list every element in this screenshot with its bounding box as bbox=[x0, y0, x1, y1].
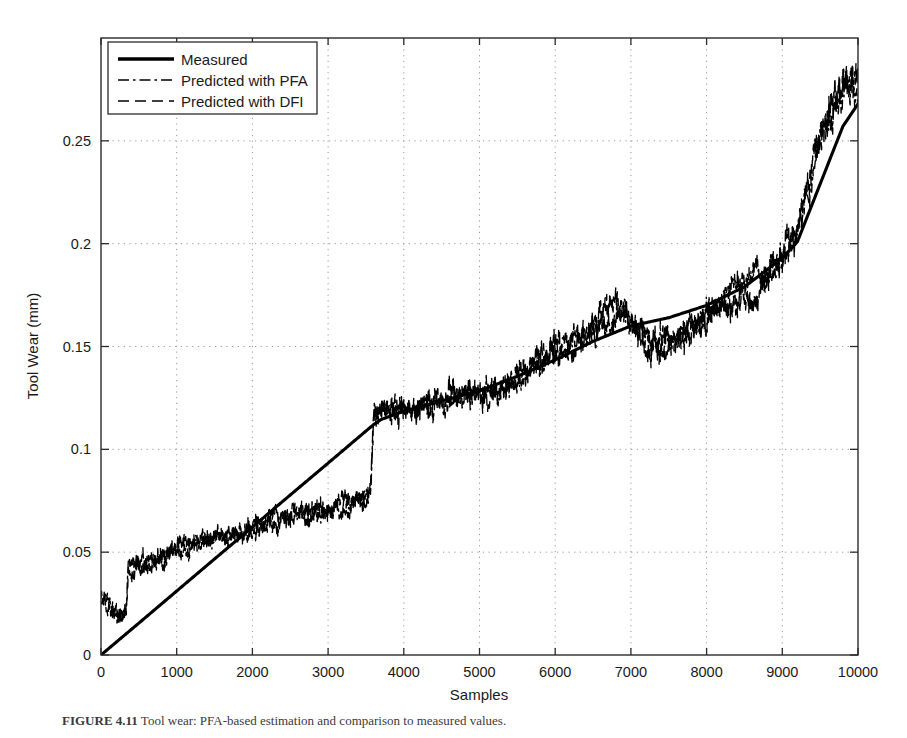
x-tick-label: 0 bbox=[97, 664, 105, 680]
y-tick-label: 0.15 bbox=[63, 339, 91, 355]
x-tick-label: 1000 bbox=[161, 664, 193, 680]
y-tick-label: 0 bbox=[83, 647, 91, 663]
x-axis-label: Samples bbox=[450, 686, 508, 703]
x-tick-label: 5000 bbox=[463, 664, 495, 680]
figure-caption-body: Tool wear: PFA-based estimation and comp… bbox=[141, 713, 506, 728]
y-tick-label: 0.05 bbox=[63, 544, 91, 560]
y-axis-label: Tool Wear (mm) bbox=[24, 293, 41, 399]
x-tick-label: 6000 bbox=[539, 664, 571, 680]
y-tick-label: 0.1 bbox=[71, 441, 91, 457]
chart-legend: MeasuredPredicted with PFAPredicted with… bbox=[108, 42, 317, 114]
legend-label-predicted-with-pfa: Predicted with PFA bbox=[181, 72, 308, 89]
x-tick-label: 7000 bbox=[615, 664, 647, 680]
y-tick-label: 0.25 bbox=[63, 133, 91, 149]
legend-label-measured: Measured bbox=[181, 51, 248, 68]
figure-caption: FIGURE 4.11 Tool wear: PFA-based estimat… bbox=[62, 712, 862, 738]
x-tick-label: 3000 bbox=[312, 664, 344, 680]
figure-caption-number: FIGURE 4.11 bbox=[62, 713, 138, 728]
x-tick-label: 9000 bbox=[766, 664, 798, 680]
x-tick-label: 4000 bbox=[388, 664, 420, 680]
tool-wear-chart: 0100020003000400050006000700080009000100… bbox=[0, 0, 907, 738]
x-tick-label: 10000 bbox=[838, 664, 878, 680]
figure-container: 0100020003000400050006000700080009000100… bbox=[0, 0, 907, 738]
y-tick-label: 0.2 bbox=[71, 236, 91, 252]
x-tick-label: 2000 bbox=[236, 664, 268, 680]
legend-label-predicted-with-dfi: Predicted with DFI bbox=[181, 93, 304, 110]
x-tick-label: 8000 bbox=[690, 664, 722, 680]
